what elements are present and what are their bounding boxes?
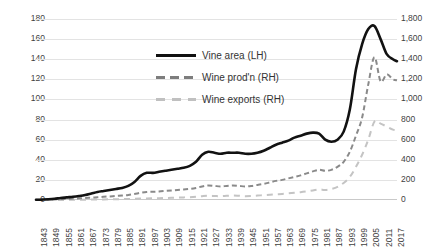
x-tick-label: 1885: [126, 228, 135, 247]
x-tick-label: 1843: [40, 228, 49, 247]
x-tick-label: 1915: [188, 228, 197, 247]
chart-legend: Vine area (LH) Wine prod'n (RH) Wine exp…: [156, 44, 331, 110]
x-tick-label: 2011: [385, 229, 394, 247]
y-tick-label: 1,000: [401, 94, 422, 103]
legend-swatch-solid-icon: [156, 50, 196, 60]
y-tick-label: 1,600: [401, 34, 422, 43]
legend-swatch-dashed-icon: [156, 72, 196, 82]
x-tick-label: 1957: [274, 228, 283, 247]
x-tick-label: 2017: [397, 228, 406, 247]
x-tick-label: 1975: [311, 228, 320, 247]
y-tick-label: 200: [401, 175, 415, 184]
x-tick-label: 1939: [237, 228, 246, 247]
x-tick-label: 1897: [151, 228, 160, 247]
legend-label-vine-area: Vine area (LH): [196, 50, 267, 61]
x-tick-label: 1927: [212, 228, 221, 247]
legend-swatch-dashed-light-icon: [156, 94, 196, 104]
x-tick-label: 1921: [200, 228, 209, 247]
legend-label-wine-production: Wine prod'n (RH): [196, 72, 279, 83]
y-tick-label: 1,200: [401, 74, 422, 83]
x-tick-label: 1945: [249, 228, 258, 247]
x-tick-label: 1963: [286, 228, 295, 247]
x-tick-label: 1993: [348, 228, 357, 247]
y-tick-label: 1,800: [401, 14, 422, 23]
y-tick-label: 1,400: [401, 54, 422, 63]
y-tick-label: 600: [401, 135, 415, 144]
y-tick-label: 800: [401, 115, 415, 124]
x-tick-label: 1981: [323, 228, 332, 247]
x-tick-label: 1951: [262, 228, 271, 247]
x-tick-label: 1861: [77, 228, 86, 247]
y-tick-label: 0: [401, 195, 406, 204]
x-tick-label: 1855: [65, 228, 74, 247]
x-tick-label: 1867: [89, 228, 98, 247]
x-tick-label: 1891: [138, 228, 147, 247]
x-tick-label: 1879: [114, 228, 123, 247]
x-tick-label: 1873: [102, 228, 111, 247]
legend-label-wine-exports: Wine exports (RH): [196, 94, 284, 105]
x-tick-label: 1903: [163, 228, 172, 247]
x-tick-label: 2005: [372, 228, 381, 247]
vine-area-wine-chart: 180160140120100806040200 1,8001,6001,400…: [0, 0, 446, 251]
x-tick-label: 1933: [225, 228, 234, 247]
x-axis-labels: 1843184918551861186718731879188518911897…: [36, 203, 397, 249]
legend-item-wine-production: Wine prod'n (RH): [156, 66, 331, 88]
x-tick-label: 1987: [335, 228, 344, 247]
x-tick-label: 1849: [52, 228, 61, 247]
y-tick-label: 400: [401, 155, 415, 164]
x-tick-label: 1999: [360, 228, 369, 247]
x-tick-label: 1909: [175, 228, 184, 247]
x-tick-label: 1969: [298, 228, 307, 247]
legend-item-vine-area: Vine area (LH): [156, 44, 331, 66]
legend-item-wine-exports: Wine exports (RH): [156, 88, 331, 110]
